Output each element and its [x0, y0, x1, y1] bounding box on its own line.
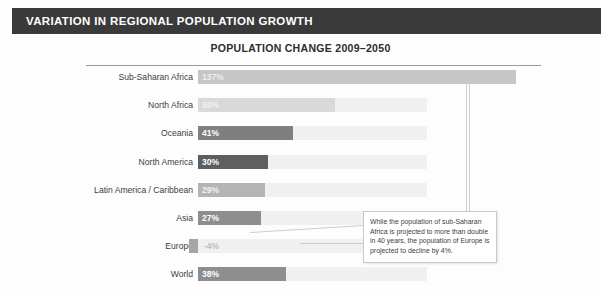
- chart-title: POPULATION CHANGE 2009–2050: [0, 42, 601, 54]
- bar-row: Latin America / Caribbean29%: [0, 183, 601, 197]
- bar-value-label: 27%: [202, 211, 219, 225]
- infographic-page: VARIATION IN REGIONAL POPULATION GROWTH …: [0, 0, 601, 297]
- header-title: VARIATION IN REGIONAL POPULATION GROWTH: [26, 15, 313, 27]
- callout-box: While the population of sub-Saharan Afri…: [363, 211, 497, 263]
- bar-row-label: Sub-Saharan Africa: [23, 70, 193, 84]
- bar-row-label: North Africa: [23, 98, 193, 112]
- bar-value-label: 59%: [202, 98, 219, 112]
- callout-leader-horizontal: [300, 243, 363, 244]
- bar-value-label: 137%: [202, 70, 224, 84]
- bar-value-label: 38%: [202, 267, 219, 281]
- bar-value-label: 30%: [202, 155, 219, 169]
- bar-row: Europe-4%: [0, 239, 601, 253]
- bar-row: North America30%: [0, 155, 601, 169]
- bar-row-label: Asia: [23, 211, 193, 225]
- bar-row: Sub-Saharan Africa137%: [0, 70, 601, 84]
- chart-top-rule: [86, 65, 541, 66]
- header-banner: VARIATION IN REGIONAL POPULATION GROWTH: [12, 8, 601, 34]
- bottom-cut-text: [250, 289, 590, 297]
- bar-chart: Sub-Saharan Africa137%North Africa59%Oce…: [0, 68, 601, 293]
- bar-row-label: Oceania: [23, 126, 193, 140]
- bar-row: North Africa59%: [0, 98, 601, 112]
- callout-text: While the population of sub-Saharan Afri…: [370, 217, 492, 255]
- callout-leader-line-2: [469, 82, 470, 212]
- bar-value-label: 29%: [202, 183, 219, 197]
- bar-row: Asia27%: [0, 211, 601, 225]
- bar-value-label: 41%: [202, 126, 219, 140]
- bar-row: World38%: [0, 267, 601, 281]
- bar-row-label: North America: [23, 155, 193, 169]
- callout-leader-line: [466, 82, 467, 212]
- bar-row-label: Europe: [23, 239, 193, 253]
- bar-row-label: Latin America / Caribbean: [23, 183, 193, 197]
- bar-value-label: -4%: [204, 239, 219, 253]
- bar: [189, 239, 198, 253]
- bar-row: Oceania41%: [0, 126, 601, 140]
- bar-row-label: World: [23, 267, 193, 281]
